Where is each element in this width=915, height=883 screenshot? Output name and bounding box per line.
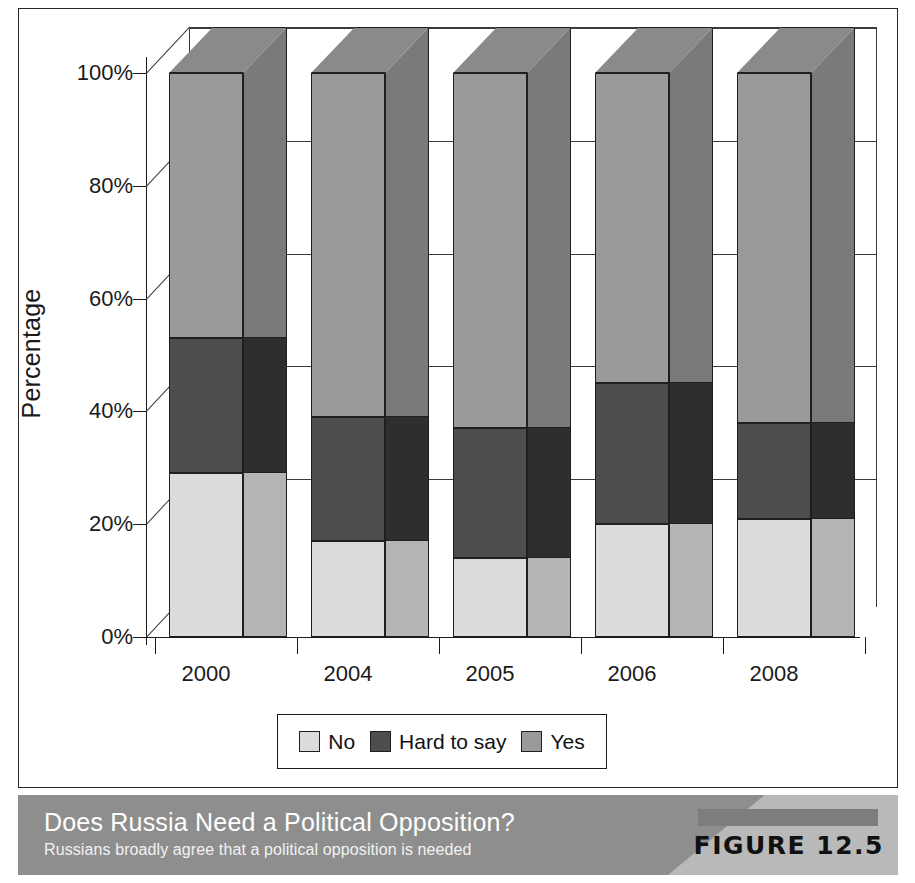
- caption-text-block: Does Russia Need a Political Opposition?…: [44, 809, 515, 859]
- x-tick-label: 2008: [699, 661, 849, 687]
- y-tick-mark: [133, 524, 146, 525]
- bar-segment-side: [811, 27, 855, 423]
- x-tick-label: 2000: [131, 661, 281, 687]
- bar-segment-front: [169, 338, 243, 473]
- legend-item-yes[interactable]: Yes: [521, 730, 584, 754]
- x-axis-line: [146, 637, 860, 638]
- legend-label: Yes: [550, 730, 584, 754]
- bar-segment-side: [527, 27, 571, 428]
- y-tick-mark: [133, 186, 146, 187]
- x-tick-mark: [297, 637, 298, 654]
- bar-segment-side: [243, 27, 287, 338]
- x-tick-label: 2005: [415, 661, 565, 687]
- legend-swatch-icon: [370, 731, 391, 752]
- bar-segment-front: [453, 73, 527, 428]
- bar-segment-front: [311, 417, 385, 541]
- bar-segment-front: [311, 73, 385, 417]
- legend-label: No: [328, 730, 355, 754]
- bar-segment-side: [669, 27, 713, 383]
- y-tick-mark: [133, 73, 146, 74]
- y-tick-mark: [133, 299, 146, 300]
- bar-segment-front: [595, 524, 669, 637]
- y-axis-line: [146, 57, 147, 645]
- bar-segment-front: [453, 558, 527, 637]
- x-tick-mark: [439, 637, 440, 654]
- y-axis-ticks: 0%20%40%60%80%100%: [37, 9, 133, 709]
- y-tick-label: 20%: [41, 511, 133, 537]
- y-tick-mark: [133, 637, 146, 638]
- bar-segment-front: [311, 541, 385, 637]
- x-tick-label: 2004: [273, 661, 423, 687]
- chart-legend: NoHard to sayYes: [277, 714, 607, 769]
- legend-item-hard-to-say[interactable]: Hard to say: [370, 730, 506, 754]
- x-tick-mark: [723, 637, 724, 654]
- x-tick-mark: [581, 637, 582, 654]
- bar-segment-front: [595, 73, 669, 383]
- bar-segment-front: [169, 473, 243, 637]
- legend-label: Hard to say: [399, 730, 506, 754]
- x-tick-mark: [865, 637, 866, 654]
- y-tick-label: 80%: [41, 173, 133, 199]
- y-tick-label: 60%: [41, 286, 133, 312]
- figure-container: Percentage 0%20%40%60%80%100% 2000200420…: [0, 0, 915, 883]
- bar-segment-front: [737, 519, 811, 637]
- bar-segment-front: [737, 73, 811, 423]
- legend-swatch-icon: [521, 731, 542, 752]
- y-tick-label: 0%: [41, 624, 133, 650]
- legend-item-no[interactable]: No: [299, 730, 355, 754]
- bar-segment-front: [169, 73, 243, 338]
- y-tick-label: 40%: [41, 398, 133, 424]
- chart-panel: Percentage 0%20%40%60%80%100% 2000200420…: [18, 8, 898, 788]
- figure-tag-bar: [698, 809, 878, 826]
- x-tick-mark: [155, 637, 156, 654]
- bar-segment-front: [595, 383, 669, 524]
- x-tick-label: 2006: [557, 661, 707, 687]
- y-tick-mark: [133, 411, 146, 412]
- bar-segment-front: [453, 428, 527, 558]
- bar-segment-side: [385, 27, 429, 417]
- caption-band: Does Russia Need a Political Opposition?…: [18, 795, 898, 875]
- caption-subtitle: Russians broadly agree that a political …: [44, 841, 515, 859]
- legend-swatch-icon: [299, 731, 320, 752]
- figure-number: FIGURE 12.5: [694, 831, 884, 860]
- caption-title: Does Russia Need a Political Opposition?: [44, 809, 515, 835]
- plot-area: Percentage 0%20%40%60%80%100% 2000200420…: [19, 9, 899, 709]
- bar-segment-front: [737, 423, 811, 519]
- y-tick-label: 100%: [41, 60, 133, 86]
